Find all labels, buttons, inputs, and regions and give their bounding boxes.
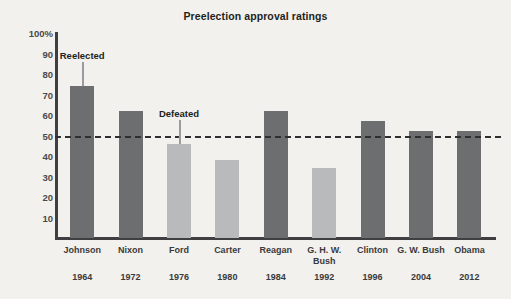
x-label-5: G. H. W. Bush bbox=[300, 245, 348, 267]
y-tick-80: 80 bbox=[1, 69, 53, 80]
annotation-label-defeated: Defeated bbox=[159, 108, 199, 119]
x-label-0: Johnson bbox=[58, 245, 106, 256]
y-tick-100: 100% bbox=[1, 28, 53, 39]
y-tick-30: 30 bbox=[1, 171, 53, 182]
y-tick-20: 20 bbox=[1, 192, 53, 203]
x-label-3: Carter bbox=[203, 245, 251, 256]
bar-nixon bbox=[119, 111, 143, 238]
bar-carter bbox=[215, 160, 239, 238]
chart-title: Preelection approval ratings bbox=[0, 10, 511, 22]
x-label-7: G. W. Bush bbox=[397, 245, 445, 256]
y-tick-40: 40 bbox=[1, 151, 53, 162]
bar-gwbush bbox=[409, 131, 433, 238]
y-tick-10: 10 bbox=[1, 212, 53, 223]
bar-ford bbox=[167, 144, 191, 238]
x-label-4: Reagan bbox=[252, 245, 300, 256]
x-label-2: Ford bbox=[155, 245, 203, 256]
threshold-line-50 bbox=[55, 136, 501, 138]
y-tick-60: 60 bbox=[1, 110, 53, 121]
bar-clinton bbox=[361, 121, 385, 238]
x-year-0: 1964 bbox=[58, 272, 106, 282]
annotation-leader-0 bbox=[82, 62, 84, 86]
x-year-2: 1976 bbox=[155, 272, 203, 282]
x-year-8: 2012 bbox=[445, 272, 493, 282]
x-year-3: 1980 bbox=[203, 272, 251, 282]
bar-johnson bbox=[70, 86, 94, 238]
x-year-5: 1992 bbox=[300, 272, 348, 282]
x-year-7: 2004 bbox=[397, 272, 445, 282]
x-year-6: 1996 bbox=[348, 272, 396, 282]
x-label-8: Obama bbox=[445, 245, 493, 256]
x-year-1: 1972 bbox=[106, 272, 154, 282]
bar-reagan bbox=[264, 111, 288, 238]
bar-obama bbox=[457, 131, 481, 238]
y-tick-90: 90 bbox=[1, 48, 53, 59]
bar-ghwbush bbox=[312, 168, 336, 238]
chart-figure: Preelection approval ratings 100%9080706… bbox=[0, 0, 511, 299]
y-axis-tick-labels: 100%908070605040302010 bbox=[0, 0, 53, 299]
y-tick-70: 70 bbox=[1, 89, 53, 100]
x-label-6: Clinton bbox=[348, 245, 396, 256]
x-year-4: 1984 bbox=[252, 272, 300, 282]
annotation-label-reelected: Reelected bbox=[60, 50, 105, 61]
y-tick-50: 50 bbox=[1, 130, 53, 141]
x-label-1: Nixon bbox=[106, 245, 154, 256]
annotation-leader-1 bbox=[179, 120, 181, 144]
